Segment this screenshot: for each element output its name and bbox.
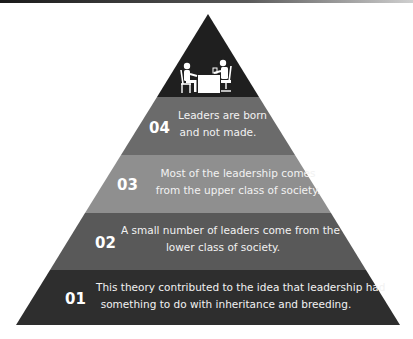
level-02-line1: A small number of leaders come from the [121,222,325,239]
level-04-text: Leaders are born and not made. [178,107,258,141]
level-03-text: Most of the leadership comes from the up… [146,165,330,199]
level-01-text: This theory contributed to the idea that… [96,279,356,313]
level-01-line2: something to do with inheritance and bre… [96,296,356,313]
level-03-number: 03 [117,176,138,194]
level-04-line2: and not made. [178,124,258,141]
level-04-line1: Leaders are born [178,107,258,124]
level-02-number: 02 [95,234,116,252]
level-03-line2: from the upper class of society. [146,182,330,199]
level-01-number: 01 [65,290,86,308]
level-04-number: 04 [149,119,170,137]
level-02-line2: lower class of society. [121,239,325,256]
level-02-text: A small number of leaders come from the … [121,222,325,256]
level-01-line1: This theory contributed to the idea that… [96,279,356,296]
level-03-line1: Most of the leadership comes [146,165,330,182]
